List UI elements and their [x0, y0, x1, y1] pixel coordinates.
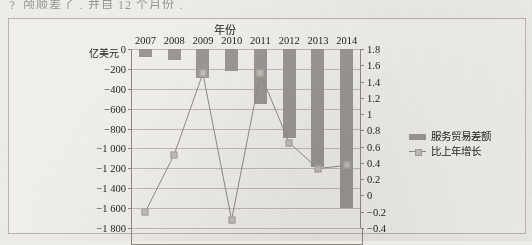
y-left-tick-mark	[128, 129, 131, 130]
x-tick-label: 2008	[164, 35, 185, 46]
y-right-tick-mark	[361, 130, 364, 131]
x-tick-label: 2010	[221, 35, 242, 46]
y-left-tick-label: −800	[104, 123, 126, 134]
y-right-tick-label: 0.8	[367, 125, 380, 136]
y-right-tick-label: 1.2	[367, 92, 380, 103]
legend-item-bar-label: 服务贸易差额	[431, 129, 491, 144]
y-left-tick-label: −1 000	[96, 143, 126, 154]
x-tick-label: 2012	[279, 35, 300, 46]
y-right-tick-mark	[361, 98, 364, 99]
y-left-tick-label: −1 600	[96, 203, 126, 214]
y-left-tick-label: −1 400	[96, 183, 126, 194]
line-marker-2013[interactable]	[314, 165, 321, 172]
y-right-tick-label: 0.2	[367, 174, 380, 185]
legend-item-line-label: 比上年增长	[431, 144, 481, 159]
plot-area: 20072008200920102011201220132014 0−200−4…	[131, 49, 361, 228]
x-tick-label: 2011	[250, 35, 271, 46]
y-right-tick-mark	[361, 49, 364, 50]
line-marker-2008[interactable]	[171, 151, 178, 158]
y-left-tick-mark	[128, 168, 131, 169]
plot-inner: 20072008200920102011201220132014 0−200−4…	[131, 49, 361, 228]
y-left-tick-label: −600	[104, 103, 126, 114]
y-left-tick-mark	[128, 188, 131, 189]
y-right-tick-mark	[361, 163, 364, 164]
line-marker-2014[interactable]	[343, 162, 350, 169]
y-left-tick-label: 0	[121, 44, 126, 55]
y-axis-left-unit-label: 亿美元	[89, 45, 119, 60]
y-left-tick-label: −400	[104, 83, 126, 94]
x-tick-label: 2009	[192, 35, 213, 46]
line-marker-2012[interactable]	[286, 139, 293, 146]
y-right-tick-mark	[361, 212, 364, 213]
line-marker-2011[interactable]	[257, 70, 264, 77]
y-left-tick-mark	[128, 148, 131, 149]
legend-bar-swatch-icon	[409, 134, 426, 140]
y-right-tick-mark	[361, 147, 364, 148]
legend-item-bar: 服务贸易差额	[409, 129, 491, 144]
y-right-tick-label: 0	[367, 190, 372, 201]
cut-off-body-text: ﹖ 颅顺差了﹐并自 12 个月份﹒	[6, 0, 326, 9]
line-marker-2009[interactable]	[199, 70, 206, 77]
x-tick-label: 2013	[307, 35, 328, 46]
y-right-tick-label: 1	[367, 109, 372, 120]
y-right-tick-label: 1.6	[367, 60, 380, 71]
y-left-tick-mark	[128, 49, 131, 50]
y-right-tick-mark	[361, 195, 364, 196]
line-series-layer	[131, 49, 361, 228]
y-left-tick-mark	[128, 69, 131, 70]
y-right-tick-label: −0.4	[367, 223, 386, 234]
y-left-tick-label: −1 200	[96, 163, 126, 174]
growth-line-path	[145, 73, 346, 219]
legend-line-swatch-icon	[409, 149, 426, 155]
legend-item-line: 比上年增长	[409, 144, 491, 159]
y-right-tick-label: 0.4	[367, 157, 380, 168]
y-right-tick-mark	[361, 114, 364, 115]
y-left-tick-mark	[128, 208, 131, 209]
y-right-tick-mark	[361, 82, 364, 83]
y-left-tick-mark	[128, 109, 131, 110]
line-marker-2010[interactable]	[228, 216, 235, 223]
y-right-tick-label: −0.2	[367, 206, 386, 217]
y-right-tick-mark	[361, 65, 364, 66]
x-tick-label: 2007	[135, 35, 156, 46]
chart-legend: 服务贸易差额 比上年增长	[409, 129, 491, 159]
y-left-tick-label: −1 800	[96, 223, 126, 234]
y-left-tick-label: −200	[104, 63, 126, 74]
line-marker-2007[interactable]	[142, 208, 149, 215]
chart-figure: 年份 亿美元 20072008200920102011201220132014 …	[8, 18, 526, 234]
y-right-tick-mark	[361, 179, 364, 180]
y-left-tick-mark	[128, 89, 131, 90]
x-tick-label: 2014	[336, 35, 357, 46]
y-right-tick-label: 1.8	[367, 44, 380, 55]
plot-bottom-frame	[131, 228, 363, 245]
y-right-tick-label: 1.4	[367, 76, 380, 87]
y-right-tick-label: 0.6	[367, 141, 380, 152]
